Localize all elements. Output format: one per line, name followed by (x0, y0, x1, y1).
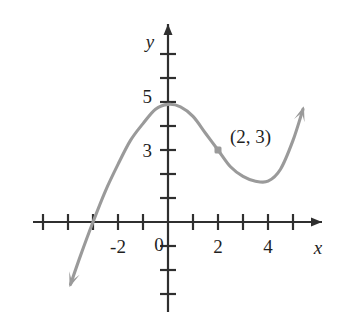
y-tick-label-5: 5 (143, 86, 153, 107)
origin-label: 0 (154, 234, 164, 255)
x-axis-label: x (313, 237, 323, 258)
coordinate-plane: -2 0 2 4 5 3 x y (2, 3) (0, 0, 352, 324)
point-marker-2-3 (215, 147, 222, 154)
x-tick-label-4: 4 (263, 236, 273, 257)
x-axis-group (33, 214, 322, 230)
x-axis-arrowhead (311, 218, 322, 227)
y-axis-arrowhead (164, 24, 173, 35)
point-annotation-label: (2, 3) (230, 126, 271, 148)
graph-figure: -2 0 2 4 5 3 x y (2, 3) (0, 0, 352, 324)
x-tick-label-2: 2 (213, 236, 223, 257)
y-axis-label: y (144, 31, 155, 52)
x-tick-label--2: -2 (110, 236, 126, 257)
y-tick-label-3: 3 (143, 140, 153, 161)
y-axis-group (160, 24, 176, 312)
